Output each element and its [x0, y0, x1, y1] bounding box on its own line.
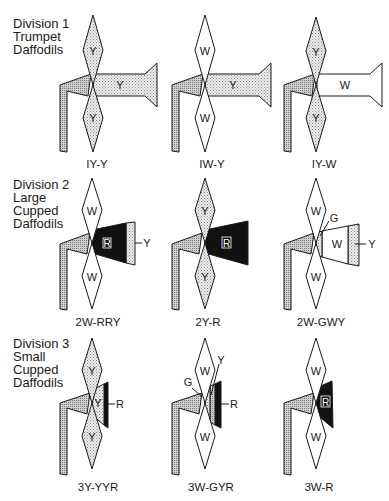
petal-bottom-label: Y — [88, 431, 96, 443]
corona-g-label: G — [184, 376, 193, 388]
corona-label: W — [340, 79, 351, 91]
flower-2y-r: R Y Y — [172, 178, 248, 310]
flower-iw-y: W W Y — [172, 15, 271, 152]
flower-2w-gwy: G W Y W W — [284, 178, 376, 310]
petal-bottom-label: W — [200, 431, 211, 443]
code-label: IY-W — [312, 158, 337, 170]
corona-r-label: R — [116, 398, 124, 410]
division-2-heading: Division 2 Large Cupped Daffodils — [13, 178, 69, 230]
flower-3y-yyr: Y R Y Y — [60, 338, 124, 475]
corona-y-label: Y — [217, 354, 225, 366]
petal-bottom-label: W — [311, 271, 322, 283]
corona-label: Y — [116, 79, 124, 91]
petal-top-label: W — [311, 365, 322, 377]
code-label: IY-Y — [86, 158, 107, 170]
corona-rim-black — [104, 382, 108, 428]
division-1-heading: Division 1 Trumpet Daffodils — [13, 17, 69, 56]
trumpet-corona — [93, 63, 157, 107]
corona-label: Y — [229, 79, 237, 91]
code-label: 3W-R — [304, 481, 333, 493]
petal-top-label: W — [87, 205, 98, 217]
flower-2w-rry: R Y W W — [60, 178, 151, 310]
corona-y-label: Y — [368, 238, 376, 250]
code-label: 3W-GYR — [188, 481, 234, 493]
daffodil-classification-diagram: Y Y Y W W Y Y Y W — [0, 0, 389, 501]
petal-top-label: Y — [312, 46, 320, 58]
heading-line: Daffodils — [13, 376, 69, 389]
corona-w-label: W — [332, 238, 343, 250]
trumpet-corona — [205, 63, 271, 107]
petal-bottom-label: Y — [312, 112, 320, 124]
petal-bottom-label: W — [200, 112, 211, 124]
flower-iy-y: Y Y Y — [60, 15, 157, 152]
petal-top-label: Y — [89, 45, 97, 57]
code-label: IW-Y — [199, 158, 224, 170]
petal-top-label: W — [200, 45, 211, 57]
petal-top-label: Y — [88, 365, 96, 377]
petal-top-label: W — [311, 205, 322, 217]
code-label: 2Y-R — [195, 316, 220, 328]
petal-top-label: Y — [201, 205, 209, 217]
code-label: 3Y-YYR — [78, 481, 119, 493]
corona-inner-label: R — [103, 238, 110, 249]
petal-top-label: W — [200, 365, 211, 377]
heading-line: Daffodils — [13, 43, 69, 56]
corona-label: R — [223, 238, 230, 249]
flower-3w-r: R W W — [284, 338, 333, 475]
petal-bottom-label: Y — [89, 112, 97, 124]
corona-rim-black — [215, 381, 221, 428]
corona-label: R — [322, 397, 329, 408]
heading-line: Daffodils — [13, 217, 69, 230]
corona-outer-label: Y — [143, 237, 151, 249]
flower-3w-gyr: G Y R W W — [172, 338, 238, 475]
corona-outer-band — [126, 222, 135, 265]
corona-y-label: Y — [94, 397, 102, 409]
petal-bottom-label: W — [311, 431, 322, 443]
corona-band-y — [348, 224, 359, 266]
code-label: 2W-RRY — [76, 316, 121, 328]
petal-bottom-label: W — [87, 271, 98, 283]
flower-iy-w: Y Y W — [284, 17, 382, 152]
code-label: 2W-GWY — [297, 316, 345, 328]
petal-bottom-label: Y — [201, 271, 209, 283]
corona-g-label: G — [330, 212, 339, 224]
division-3-heading: Division 3 Small Cupped Daffodils — [13, 337, 69, 389]
corona-r-label: R — [230, 398, 238, 410]
